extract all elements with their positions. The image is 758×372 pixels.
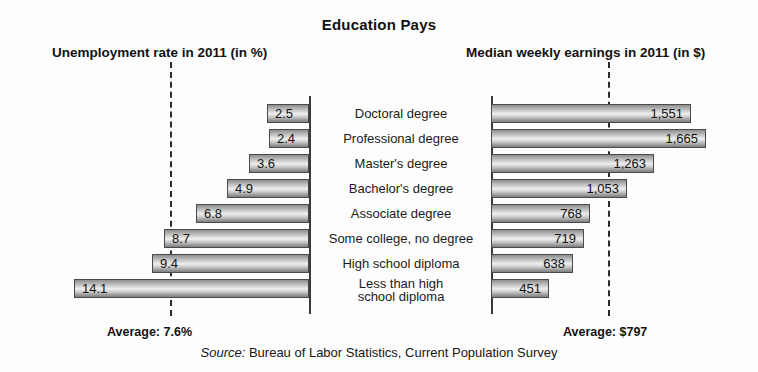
chart-row: 4.9Bachelor's degree1,053 — [0, 179, 758, 204]
category-label-line-2: school diploma — [311, 290, 491, 303]
page-title: Education Pays — [0, 16, 758, 33]
unemployment-bar: 4.9 — [227, 179, 309, 198]
category-label: Professional degree — [311, 132, 491, 146]
earnings-value: 719 — [547, 231, 583, 246]
earnings-bar: 1,665 — [491, 129, 706, 148]
earnings-bar: 719 — [491, 229, 584, 248]
earnings-value: 768 — [553, 206, 589, 221]
earnings-bar: 451 — [491, 279, 549, 298]
category-label: Some college, no degree — [311, 232, 491, 246]
right-column-header: Median weekly earnings in 2011 (in $) — [466, 45, 705, 60]
unemployment-bar: 14.1 — [74, 279, 309, 298]
source-text: Bureau of Labor Statistics, Current Popu… — [245, 345, 557, 360]
chart-row: 2.4Professional degree1,665 — [0, 129, 758, 154]
left-average-label: Average: 7.6% — [107, 325, 192, 339]
chart-row: 8.7Some college, no degree719 — [0, 229, 758, 254]
earnings-bar: 1,053 — [491, 179, 627, 198]
unemployment-bar: 9.4 — [152, 254, 309, 273]
earnings-bar: 768 — [491, 204, 590, 223]
unemployment-value: 4.9 — [228, 181, 260, 196]
chart-row: 14.1Less than highschool diploma451 — [0, 279, 758, 304]
unemployment-bar: 2.4 — [269, 129, 309, 148]
chart-row: 6.8Associate degree768 — [0, 204, 758, 229]
category-label: Doctoral degree — [311, 107, 491, 121]
earnings-bar: 1,263 — [491, 154, 654, 173]
category-label: Less than highschool diploma — [311, 277, 491, 303]
earnings-value: 1,263 — [606, 156, 653, 171]
earnings-bar: 638 — [491, 254, 573, 273]
unemployment-value: 8.7 — [165, 231, 197, 246]
category-label: Bachelor's degree — [311, 182, 491, 196]
education-pays-chart: Education Pays Unemployment rate in 2011… — [0, 0, 758, 372]
earnings-value: 1,551 — [643, 106, 690, 121]
unemployment-value: 6.8 — [197, 206, 229, 221]
earnings-value: 1,053 — [579, 181, 626, 196]
unemployment-value: 3.6 — [250, 156, 282, 171]
source-line: Source: Bureau of Labor Statistics, Curr… — [0, 345, 758, 360]
category-label: High school diploma — [311, 257, 491, 271]
unemployment-bar: 8.7 — [164, 229, 309, 248]
earnings-value: 1,665 — [658, 131, 705, 146]
plot-area: 2.5Doctoral degree1,5512.4Professional d… — [0, 96, 758, 320]
unemployment-bar: 3.6 — [249, 154, 309, 173]
earnings-value: 638 — [536, 256, 572, 271]
category-label: Master's degree — [311, 157, 491, 171]
unemployment-bar: 2.5 — [267, 104, 309, 123]
unemployment-value: 14.1 — [75, 281, 114, 296]
source-prefix: Source: — [201, 345, 246, 360]
left-column-header: Unemployment rate in 2011 (in %) — [52, 45, 267, 60]
earnings-value: 451 — [512, 281, 548, 296]
unemployment-value: 9.4 — [153, 256, 185, 271]
unemployment-value: 2.4 — [270, 131, 302, 146]
chart-row: 2.5Doctoral degree1,551 — [0, 104, 758, 129]
right-average-label: Average: $797 — [563, 325, 647, 339]
unemployment-value: 2.5 — [268, 106, 300, 121]
earnings-bar: 1,551 — [491, 104, 691, 123]
chart-row: 3.6Master's degree1,263 — [0, 154, 758, 179]
category-label: Associate degree — [311, 207, 491, 221]
unemployment-bar: 6.8 — [196, 204, 309, 223]
